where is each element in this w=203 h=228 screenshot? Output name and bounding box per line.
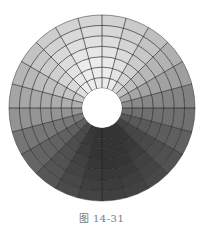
figure: 图 14-31	[0, 0, 203, 228]
mesh-edges	[9, 15, 195, 201]
shaded-ring-mesh	[0, 0, 203, 210]
figure-caption: 图 14-31	[0, 210, 203, 225]
center-hole	[82, 88, 121, 127]
